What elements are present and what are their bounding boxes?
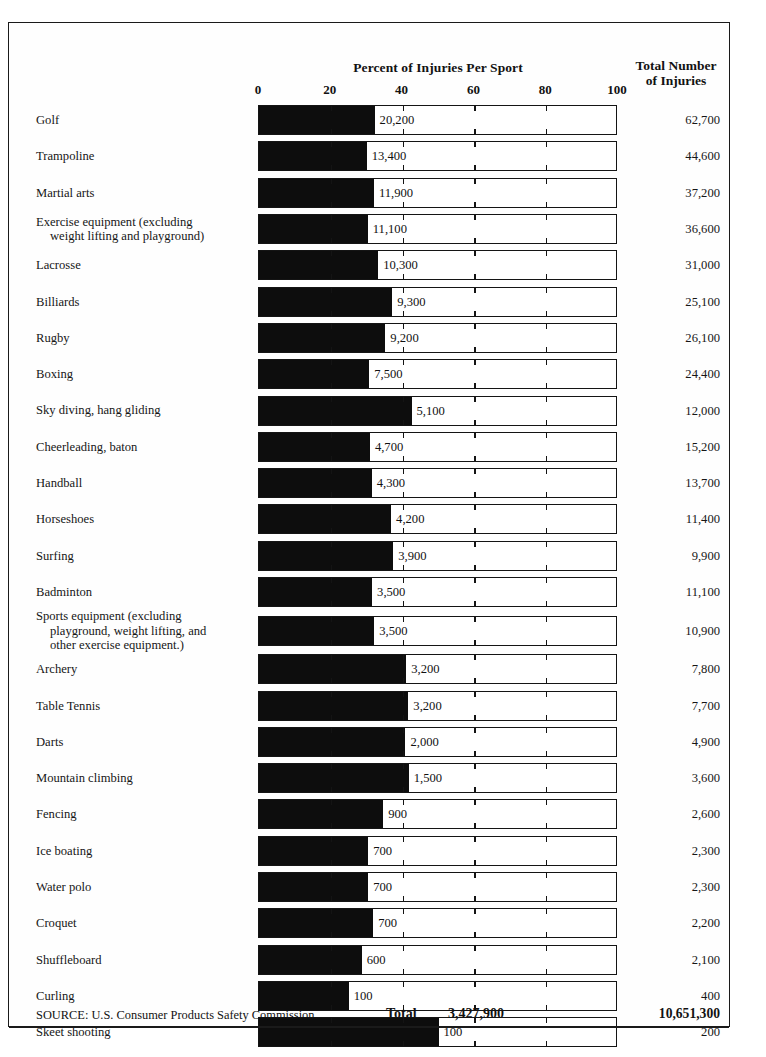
bar-value-label: 13,400 [372,149,407,164]
bar-track [258,250,617,280]
chart-row: Badminton3,50011,100 [0,574,766,610]
row-label: Surfing [36,549,251,563]
row-label: Billiards [36,295,251,309]
bar-track [258,616,617,646]
chart-row: Rugby9,20026,100 [0,320,766,356]
row-label: Water polo [36,880,251,894]
row-label: Table Tennis [36,699,251,713]
bar-value-label: 4,200 [396,512,424,527]
row-label-line: Mountain climbing [36,771,251,785]
chart-row: Golf20,20062,700 [0,102,766,138]
total-injuries-value: 10,651,300 [600,1006,720,1022]
bar-value-label: 1,500 [414,771,442,786]
row-label-line: playground, weight lifting, and [36,624,251,638]
bar-value-label: 700 [373,880,392,895]
chart-row: Fencing9002,600 [0,796,766,832]
bar-value-label: 3,900 [398,548,426,563]
row-label-line: Handball [36,476,251,490]
bar-track [258,214,617,244]
row-total: 26,100 [620,330,720,345]
row-label: Handball [36,476,251,490]
row-label: Curling [36,989,251,1003]
row-label-line: Ice boating [36,844,251,858]
bar-value-label: 9,300 [397,294,425,309]
bar-value-label: 100 [354,988,373,1003]
row-total: 9,900 [620,548,720,563]
chart-row: Trampoline13,40044,600 [0,138,766,174]
row-label: Horseshoes [36,512,251,526]
row-total: 3,600 [620,771,720,786]
chart-row: Archery3,2007,800 [0,651,766,687]
row-label-line: Martial arts [36,186,251,200]
row-total: 13,700 [620,476,720,491]
row-total: 25,100 [620,294,720,309]
chart-row: Shuffleboard6002,100 [0,942,766,978]
chart-row: Croquet7002,200 [0,905,766,941]
bar-tick-marks [259,251,616,279]
x-tick-20: 20 [323,82,336,98]
row-label-line: Billiards [36,295,251,309]
row-label: Darts [36,735,251,749]
bar-tick-marks [259,433,616,461]
bar-value-label: 600 [367,952,386,967]
row-label: Cheerleading, baton [36,440,251,454]
row-label-line: Lacrosse [36,258,251,272]
bar-track [258,287,617,317]
bar-tick-marks [259,288,616,316]
chart-row: Mountain climbing1,5003,600 [0,760,766,796]
bar-value-label: 700 [373,843,392,858]
row-label: Archery [36,662,251,676]
bar-track [258,468,617,498]
row-label-line: Curling [36,989,251,1003]
row-total: 12,000 [620,403,720,418]
bar-track [258,577,617,607]
row-label: Trampoline [36,149,251,163]
chart-row: Martial arts11,90037,200 [0,175,766,211]
bar-track [258,872,617,902]
bar-tick-marks [259,505,616,533]
row-total: 400 [620,988,720,1003]
bar-tick-marks [259,360,616,388]
row-label-line: Badminton [36,585,251,599]
chart-row: Horseshoes4,20011,400 [0,501,766,537]
bar-tick-marks [259,469,616,497]
bar-value-label: 2,000 [410,734,438,749]
row-label-line: other exercise equipment.) [36,638,251,652]
row-label: Martial arts [36,186,251,200]
chart-title: Percent of Injuries Per Sport [258,60,618,76]
row-label-line: Cheerleading, baton [36,440,251,454]
bar-track [258,141,617,171]
bar-tick-marks [259,106,616,134]
chart-row: Sports equipment (excludingplayground, w… [0,610,766,651]
bar-track [258,359,617,389]
bar-value-label: 10,300 [383,258,418,273]
footer-rule [9,1026,729,1028]
chart-row: Sky diving, hang gliding5,10012,000 [0,392,766,428]
bar-tick-marks [259,542,616,570]
row-total: 2,100 [620,952,720,967]
bar-value-label: 700 [378,916,397,931]
total-percent-value: 3,427,900 [448,1006,504,1022]
row-label-line: Golf [36,113,251,127]
bar-track [258,945,617,975]
row-label: Exercise equipment (excludingweight lift… [36,215,251,243]
x-tick-60: 60 [467,82,480,98]
row-label-line: weight lifting and playground) [36,229,251,243]
bar-value-label: 3,500 [379,623,407,638]
row-label-line: Sports equipment (excluding [36,609,251,623]
bar-value-label: 9,200 [390,330,418,345]
row-label: Badminton [36,585,251,599]
source-note: SOURCE: U.S. Consumer Products Safety Co… [36,1008,318,1023]
bar-tick-marks [259,617,616,645]
chart-row: Table Tennis3,2007,700 [0,687,766,723]
bar-track [258,178,617,208]
row-total: 37,200 [620,185,720,200]
row-total: 31,000 [620,258,720,273]
bar-value-label: 4,300 [377,476,405,491]
row-total: 4,900 [620,734,720,749]
totals-title-line2: of Injuries [620,73,732,88]
bar-tick-marks [259,946,616,974]
chart-row: Ice boating7002,300 [0,833,766,869]
row-total: 44,600 [620,149,720,164]
row-label: Rugby [36,331,251,345]
